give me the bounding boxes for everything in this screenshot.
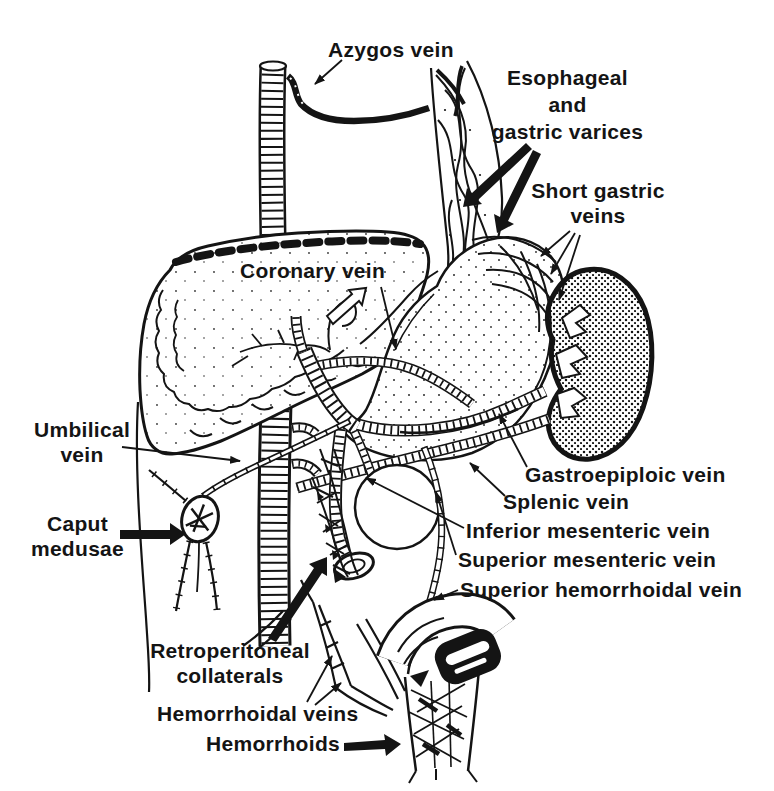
colon-cut-opening (430, 624, 506, 689)
spleen-shape (547, 269, 652, 459)
portal-hypertension-collaterals-diagram: Azygos vein Esophageal and gastric varic… (0, 0, 774, 791)
label-hemorrhoids: Hemorrhoids (206, 731, 340, 756)
label-hemorrhoidal-veins: Hemorrhoidal veins (157, 701, 358, 726)
rectum-hemorrhoidal-plexus (405, 669, 479, 783)
label-inferior-mesenteric-vein: Inferior mesenteric vein (466, 518, 710, 543)
label-esophageal-gastric-varices: Esophageal and gastric varices (470, 64, 665, 145)
short-gastric-leader-2 (551, 233, 575, 274)
label-splenic-vein: Splenic vein (503, 489, 629, 514)
label-umbilical-vein: Umbilical vein (21, 417, 143, 467)
splenic-leader-arrow (470, 463, 505, 496)
label-superior-hemorrhoidal-vein: Superior hemorrhoidal vein (460, 577, 742, 602)
label-coronary-vein: Coronary vein (240, 258, 385, 283)
label-caput-medusae: Caput medusae (10, 511, 145, 561)
label-superior-mesenteric-vein: Superior mesenteric vein (458, 547, 716, 572)
label-azygos-vein: Azygos vein (328, 37, 454, 62)
label-short-gastric-veins: Short gastric veins (508, 178, 688, 228)
azygos-vein-vessel (288, 76, 429, 121)
label-gastroepiploic-vein: Gastroepiploic vein (525, 462, 726, 487)
azygos-leader-arrow (315, 60, 342, 84)
bowel-loop (355, 465, 439, 549)
label-retroperitoneal-collaterals: Retroperitoneal collaterals (145, 638, 315, 688)
short-gastric-leader-1 (541, 231, 570, 256)
hemorrhoids-arrow (344, 734, 401, 756)
